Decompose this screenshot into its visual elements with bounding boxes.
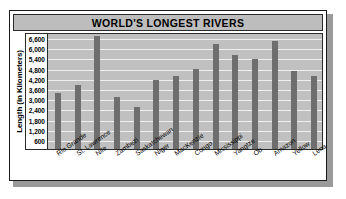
chart-title-banner: WORLD'S LONGEST RIVERS	[13, 14, 323, 31]
gridline	[48, 131, 322, 132]
y-axis-tick-label: 6,000	[29, 46, 45, 53]
bar	[252, 59, 258, 149]
gridline	[48, 80, 322, 81]
y-axis-tick-label: 2,400	[29, 107, 45, 114]
x-axis-tick-labels: Rio GrandeSt. LawrenceNileZambeziSaskatc…	[47, 151, 323, 180]
gridline	[48, 70, 322, 71]
y-axis-tick-label: 4,200	[29, 76, 45, 83]
plot-inner	[48, 34, 322, 149]
bar	[114, 97, 120, 149]
y-axis-title: Length (in Kilometers)	[13, 33, 25, 150]
gridline	[48, 121, 322, 122]
y-axis-title-label: Length (in Kilometers)	[15, 50, 24, 133]
chart-figure: WORLD'S LONGEST RIVERS Length (in Kilome…	[9, 10, 327, 181]
y-axis-tick-label: 1,200	[29, 127, 45, 134]
bar	[55, 93, 61, 149]
gridline	[48, 110, 322, 111]
gridline	[48, 39, 322, 40]
y-axis-tick-labels: 6001,2001,8002,4003,0003,6004,2004,8005,…	[25, 33, 47, 150]
y-axis-tick-label: 6,600	[29, 36, 45, 43]
gridline	[48, 90, 322, 91]
gridline	[48, 100, 322, 101]
page-title: WORLD'S LONGEST RIVERS	[92, 17, 245, 29]
y-axis-tick-label: 3,600	[29, 87, 45, 94]
y-axis-tick-label: 4,800	[29, 66, 45, 73]
gridline	[48, 59, 322, 60]
bar	[173, 76, 179, 149]
bar	[272, 41, 278, 150]
bar	[311, 76, 317, 149]
y-axis-tick-label: 600	[34, 137, 45, 144]
plot-area	[47, 33, 323, 150]
bar	[94, 36, 100, 149]
gridline	[48, 49, 322, 50]
y-axis-tick-label: 3,000	[29, 97, 45, 104]
y-axis-tick-label: 5,400	[29, 56, 45, 63]
y-axis-tick-label: 1,800	[29, 117, 45, 124]
bar	[213, 44, 219, 149]
